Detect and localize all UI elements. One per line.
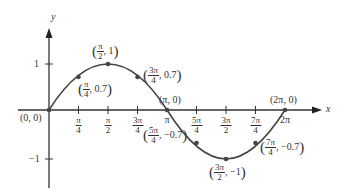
x-axis-arrow-icon [312,107,322,114]
x-tick-label-5pi-4: 5π4 [191,116,202,135]
point-label-3pi-4: (3π4, 0.7) [143,66,182,85]
point-label-pi: (π, 0) [159,95,181,105]
point-label-5pi-4: (5π4, −0.7) [143,126,187,145]
x-tick-label-pi: π [164,114,169,125]
y-axis-arrow-icon [46,28,53,38]
x-tick-label-pi-2: π2 [105,116,112,135]
point-label-7pi-4: (7π4, −0.7) [260,138,304,157]
point-label-pi-4: (π4, 0.7) [78,80,112,99]
y-tick-label-neg1: −1 [29,154,40,164]
point-label-3pi-2: (3π2, −1) [209,163,246,182]
x-tick-label-3pi-4: 3π4 [132,116,143,135]
x-axis-label: x [326,104,330,114]
y-axis-label: y [51,12,55,22]
point-label-origin: (0, 0) [20,113,42,123]
sine-graph: y x 1 −1 (0, 0) (π, 0) (2π, 0) (π4, 0.7)… [0,0,338,190]
point-label-pi-2: (π2, 1) [92,42,119,61]
x-tick-label-2pi: 2π [280,114,290,125]
x-tick-label-3pi-2: 3π2 [220,116,231,135]
y-tick-label-1: 1 [34,59,39,69]
point-label-2pi: (2π, 0) [270,95,297,105]
x-tick-label-pi-4: π4 [75,116,82,135]
x-tick-label-7pi-4: 7π4 [250,116,261,135]
